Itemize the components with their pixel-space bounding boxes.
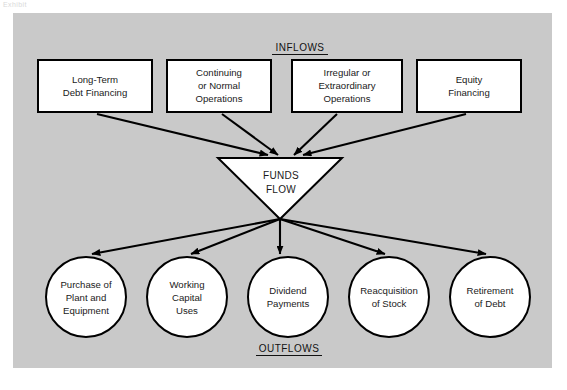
outflow-node-retirement-of-debt[interactable]: Retirement of Debt [450,257,530,337]
inflow-label-line-2: Debt Financing [63,87,128,98]
outflow-node-purchase-of-plant-and-equipment[interactable]: Purchase of Plant and Equipment [46,257,126,337]
funnel-label-line-2: FLOW [266,184,296,195]
outflow-label-line-3: Uses [176,305,198,316]
outflow-label-line-1: Dividend [269,285,306,296]
outflow-label-line-1: Reacquisition [360,285,418,296]
inflows-section-label: INFLOWS [272,42,328,55]
outflow-label-line-2: Capital [172,292,202,303]
inflow-label-line-1: Equity [456,74,483,85]
outflow-node-dividend-payments[interactable]: Dividend Payments [248,257,328,337]
outflow-label-line-3: Equipment [63,305,109,316]
inflow-label-line-2: Extraordinary [318,80,375,91]
inflow-label-line-2: or Normal [198,80,240,91]
outflow-label-line-2: of Debt [475,298,506,309]
outflow-label-line-2: Payments [267,298,310,309]
funnel-label-line-1: FUNDS [263,170,299,181]
outflow-label-line-2: of Stock [372,298,407,309]
inflow-node-equity-financing[interactable]: Equity Financing [417,60,521,112]
inflow-label-line-1: Long-Term [72,74,118,85]
inflow-label-line-1: Irregular or [324,67,372,78]
inflow-label-line-3: Operations [324,93,371,104]
inflow-label-line-3: Operations [196,93,243,104]
outflow-label-line-2: Plant and [66,292,107,303]
outflow-label-line-1: Working [169,279,204,290]
outflow-label-line-1: Purchase of [60,279,112,290]
inflow-label-line-2: Financing [448,87,490,98]
outflows-section-label: OUTFLOWS [256,343,322,356]
inflows-label-text: INFLOWS [275,42,324,53]
inflow-label-line-1: Continuing [196,67,242,78]
inflow-node-long-term-debt-financing[interactable]: Long-Term Debt Financing [38,60,152,112]
figure-root: Exhibit INFLOWS [0,0,567,390]
outflow-node-reacquisition-of-stock[interactable]: Reacquisition of Stock [349,257,429,337]
inflow-node-continuing-or-normal-operations[interactable]: Continuing or Normal Operations [167,60,271,112]
outflow-node-working-capital-uses[interactable]: Working Capital Uses [147,257,227,337]
outflows-label-text: OUTFLOWS [259,343,320,354]
outflow-label-line-1: Retirement [467,285,514,296]
funds-flow-diagram: INFLOWS Long-Term Debt Financing [0,0,567,390]
inflow-node-irregular-or-extraordinary-operations[interactable]: Irregular or Extraordinary Operations [292,60,402,112]
